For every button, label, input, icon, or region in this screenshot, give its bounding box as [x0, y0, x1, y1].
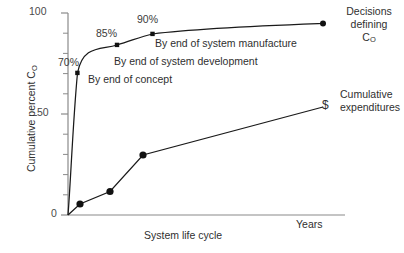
curve-marker-70 [75, 71, 79, 75]
note-cumulative-line2: expenditures [340, 102, 400, 114]
x-axis-end-label: Years [296, 219, 322, 231]
expenditure-marker-1 [76, 200, 83, 207]
annotation-end-of-concept: By end of concept [88, 74, 172, 86]
dollar-sign-marker: $ [322, 99, 329, 112]
y-axis-title-text: Cumulative percent C [25, 71, 37, 172]
curve-endpoint-marker [320, 21, 326, 27]
percent-label-85: 85% [96, 28, 117, 40]
note-decisions-subscript: O [370, 35, 376, 44]
annotation-end-of-manufacture: By end of system manufacture [155, 38, 297, 50]
y-axis-major-ticks [61, 13, 68, 215]
chart-figure: 100 50 0 Cumulative percent CO 70% 85% 9… [0, 0, 404, 253]
annotation-end-of-development: By end of system development [114, 56, 258, 68]
y-tick-label-50: 50 [37, 107, 49, 119]
y-tick-label-0: 0 [51, 208, 57, 220]
expenditure-marker-2 [106, 188, 113, 195]
percent-label-90: 90% [137, 14, 158, 26]
note-decisions-line1: Decisions [336, 6, 402, 18]
y-axis-title: Cumulative percent CO [25, 39, 38, 199]
note-decisions-line2: defining [336, 19, 402, 31]
percent-label-70: 70% [58, 57, 79, 69]
curve-marker-90 [150, 32, 154, 36]
y-axis-title-subscript: O [30, 65, 39, 71]
note-decisions-line3: CO [336, 32, 402, 45]
note-cumulative-line1: Cumulative [340, 89, 393, 101]
expenditure-marker-3 [139, 151, 146, 158]
curve-marker-85 [115, 43, 119, 47]
x-axis-title: System life cycle [144, 230, 222, 242]
note-decisions-symbol: C [362, 31, 370, 43]
expenditure-line [68, 107, 323, 215]
commitment-curve [68, 24, 323, 216]
y-tick-label-100: 100 [29, 6, 47, 18]
